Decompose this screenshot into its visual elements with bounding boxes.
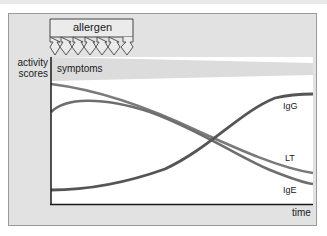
y-axis-label-line1: activity: [14, 57, 48, 68]
diagram-canvas: [0, 0, 327, 236]
label-ige: IgE: [283, 185, 297, 196]
y-axis-label-line2: scores: [14, 68, 48, 79]
symptoms-label: symptoms: [57, 63, 103, 74]
allergen-arrows-icon: [50, 37, 133, 55]
label-lt: LT: [285, 153, 295, 164]
allergen-label: allergen: [73, 22, 112, 33]
x-axis-label: time: [292, 207, 311, 218]
label-igg: IgG: [283, 101, 298, 112]
